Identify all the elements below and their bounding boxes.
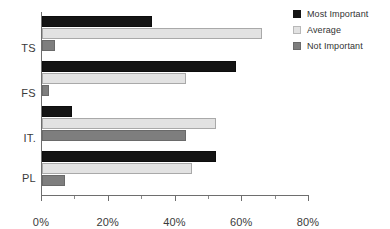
bar-ts-average: [42, 28, 262, 39]
x-tick-major-0: [41, 196, 42, 201]
x-tick-major-60: [241, 196, 242, 201]
y-axis-label-fs: FS: [2, 87, 36, 99]
x-tick-minor-30: [141, 196, 142, 199]
x-tick-label-80: 80%: [297, 216, 320, 228]
bar-it-average: [42, 118, 216, 129]
bar-it-most-important: [42, 106, 72, 117]
bar-pl-not-important: [42, 175, 65, 186]
bar-ts-most-important: [42, 16, 152, 27]
x-tick-label-20: 20%: [96, 216, 119, 228]
x-tick-minor-50: [208, 196, 209, 199]
y-axis-category-labels: TS FS IT. PL: [0, 12, 36, 195]
bar-fs-most-important: [42, 61, 236, 72]
plot-area: 0% 20% 40% 60% 80%: [41, 12, 308, 195]
legend-label-average: Average: [307, 25, 341, 35]
x-tick-minor-10: [74, 196, 75, 199]
y-axis-label-it: IT.: [2, 132, 36, 144]
bar-pl-average: [42, 163, 192, 174]
bar-pl-most-important: [42, 151, 216, 162]
legend-label-most-important: Most Important: [307, 9, 368, 19]
x-tick-label-0: 0%: [33, 216, 49, 228]
bar-ts-not-important: [42, 40, 55, 51]
x-tick-minor-70: [275, 196, 276, 199]
y-axis-label-ts: TS: [2, 42, 36, 54]
x-tick-major-40: [175, 196, 176, 201]
x-tick-label-40: 40%: [163, 216, 186, 228]
bar-fs-average: [42, 73, 186, 84]
bar-chart: Most Important Average Not Important TS …: [0, 0, 390, 229]
x-tick-major-20: [108, 196, 109, 201]
x-tick-label-60: 60%: [230, 216, 253, 228]
bar-it-not-important: [42, 130, 186, 141]
legend-label-not-important: Not Important: [307, 41, 363, 51]
bar-fs-not-important: [42, 85, 49, 96]
y-axis-label-pl: PL: [2, 172, 36, 184]
x-tick-major-80: [308, 196, 309, 201]
